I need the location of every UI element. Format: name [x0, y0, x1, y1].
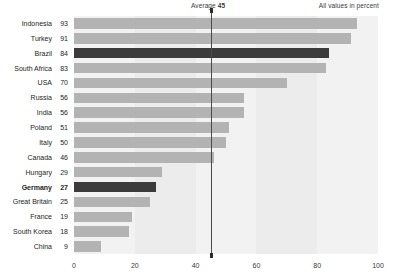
bar-category-label: Italy	[0, 139, 52, 146]
bar-row: Germany27	[0, 180, 405, 195]
bar-track	[74, 135, 378, 150]
bar-track	[74, 165, 378, 180]
bar-track	[74, 16, 378, 31]
bar-category-label: China	[0, 243, 52, 250]
bar-row: Poland51	[0, 120, 405, 135]
bar-value-label: 91	[54, 35, 68, 42]
bar-row: USA70	[0, 76, 405, 91]
average-line	[211, 8, 212, 258]
bar-track	[74, 224, 378, 239]
bar-row: Canada46	[0, 150, 405, 165]
x-axis: 020406080100	[0, 254, 405, 280]
bar-track	[74, 46, 378, 61]
bar-value-label: 83	[54, 65, 68, 72]
bar-value-label: 19	[54, 213, 68, 220]
bar-category-label: Turkey	[0, 35, 52, 42]
x-tick-label: 0	[72, 262, 76, 269]
bar-track	[74, 195, 378, 210]
bar-row: Indonesia93	[0, 16, 405, 31]
bar	[74, 48, 329, 58]
average-annotation-value: 45	[218, 2, 225, 9]
bar	[74, 182, 156, 192]
bar-category-label: Canada	[0, 154, 52, 161]
bar-value-label: 93	[54, 20, 68, 27]
bar-track	[74, 239, 378, 254]
average-line-cap-top	[210, 8, 213, 13]
bar-value-label: 18	[54, 228, 68, 235]
bar	[74, 122, 229, 132]
bar-category-label: Great Britain	[0, 198, 52, 205]
bar-track	[74, 76, 378, 91]
bar	[74, 137, 226, 147]
bar-row: Turkey91	[0, 31, 405, 46]
bar	[74, 18, 357, 28]
bar-track	[74, 150, 378, 165]
unit-note: All values in percent	[319, 2, 379, 9]
bar-value-label: 25	[54, 198, 68, 205]
bar	[74, 107, 244, 117]
bar	[74, 78, 287, 88]
bar-category-label: Hungary	[0, 169, 52, 176]
bar-track	[74, 105, 378, 120]
bar	[74, 212, 132, 222]
bar-row: South Africa83	[0, 61, 405, 76]
bar-category-label: Indonesia	[0, 20, 52, 27]
bar-category-label: Brazil	[0, 50, 52, 57]
bar-row: France19	[0, 209, 405, 224]
bar-value-label: 9	[54, 243, 68, 250]
bar-category-label: France	[0, 213, 52, 220]
x-tick-label: 60	[252, 262, 260, 269]
bar	[74, 226, 129, 236]
bar-value-label: 50	[54, 139, 68, 146]
x-tick-label: 100	[372, 262, 384, 269]
bar-category-label: USA	[0, 79, 52, 86]
bar-row: Brazil84	[0, 46, 405, 61]
bar-value-label: 27	[54, 184, 68, 191]
bar-chart: Average45 All values in percent Indonesi…	[0, 0, 405, 280]
bar-rows: Indonesia93Turkey91Brazil84South Africa8…	[0, 16, 405, 254]
bar	[74, 63, 326, 73]
bar-category-label: India	[0, 109, 52, 116]
bar-category-label: South Korea	[0, 228, 52, 235]
bar	[74, 93, 244, 103]
bar-value-label: 51	[54, 124, 68, 131]
bar-row: India56	[0, 105, 405, 120]
bar-row: Great Britain25	[0, 195, 405, 210]
bar-category-label: Germany	[0, 184, 52, 191]
bar-value-label: 84	[54, 50, 68, 57]
bar-row: Hungary29	[0, 165, 405, 180]
bar	[74, 241, 101, 251]
bar-category-label: Poland	[0, 124, 52, 131]
x-tick-label: 40	[192, 262, 200, 269]
x-tick-label: 80	[313, 262, 321, 269]
bar-row: South Korea18	[0, 224, 405, 239]
bar-value-label: 56	[54, 109, 68, 116]
bar-track	[74, 209, 378, 224]
bar-track	[74, 120, 378, 135]
bar-row: Russia56	[0, 90, 405, 105]
bar-track	[74, 31, 378, 46]
bar-value-label: 56	[54, 94, 68, 101]
bar-value-label: 29	[54, 169, 68, 176]
bar-track	[74, 61, 378, 76]
bar-row: China9	[0, 239, 405, 254]
bar-track	[74, 180, 378, 195]
bar-value-label: 70	[54, 79, 68, 86]
bar-value-label: 46	[54, 154, 68, 161]
bar	[74, 152, 214, 162]
average-annotation: Average45	[191, 2, 225, 9]
bar-track	[74, 90, 378, 105]
bar-row: Italy50	[0, 135, 405, 150]
x-tick-label: 20	[131, 262, 139, 269]
bar	[74, 197, 150, 207]
bar	[74, 167, 162, 177]
bar-category-label: South Africa	[0, 65, 52, 72]
bar	[74, 33, 351, 43]
bar-category-label: Russia	[0, 94, 52, 101]
